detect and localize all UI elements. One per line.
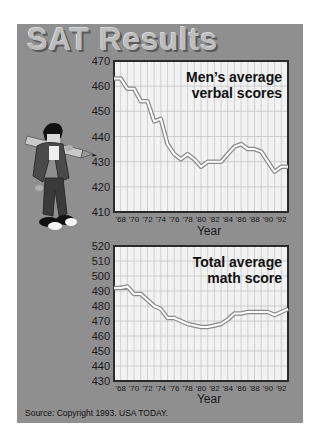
chart-title: math score [207,270,282,286]
x-tick-label: '80 [196,215,207,224]
y-tick-label: 470 [92,315,110,327]
x-tick-label: '70 [129,215,140,224]
y-tick-label: 450 [92,105,110,117]
y-tick-label: 520 [92,240,110,252]
y-tick-label: 460 [92,80,110,92]
x-tick-label: '84 [223,384,234,393]
x-axis-title: Year [197,224,221,238]
y-tick-label: 510 [92,255,110,267]
x-tick-label: '74 [156,384,167,393]
y-tick-label: 430 [92,375,110,387]
x-tick-label: '72 [142,215,153,224]
x-tick-label: '86 [236,384,247,393]
x-tick-label: '86 [236,215,247,224]
x-tick-label: '72 [142,384,153,393]
x-tick-label: '92 [276,215,287,224]
chart-title: Men’s average [186,69,282,85]
chart-title: Total average [193,254,282,270]
y-tick-label: 500 [92,270,110,282]
chart-title: verbal scores [192,85,282,101]
x-tick-label: '92 [276,384,287,393]
y-tick-label: 450 [92,345,110,357]
x-tick-label: '78 [182,215,193,224]
x-tick-label: '84 [223,215,234,224]
y-tick-label: 440 [92,360,110,372]
x-tick-label: '88 [249,215,260,224]
x-tick-label: '68 [115,384,126,393]
chart-2: 430440450460470480490500510520'68'70'72'… [92,240,288,406]
x-tick-label: '88 [249,384,260,393]
x-tick-label: '78 [182,384,193,393]
y-tick-label: 460 [92,330,110,342]
source-note: Source: Copyright 1993. USA TODAY. [25,408,168,418]
student-with-pencil-icon [25,118,97,238]
x-tick-label: '70 [129,384,140,393]
x-tick-label: '74 [156,215,167,224]
y-tick-label: 470 [92,55,110,67]
y-tick-label: 490 [92,285,110,297]
x-tick-label: '90 [263,215,274,224]
x-axis-title: Year [197,392,221,406]
x-tick-label: '76 [169,384,180,393]
x-tick-label: '90 [263,384,274,393]
x-tick-label: '68 [115,215,126,224]
chart-1: 410420430440450460470'68'70'72'74'76'78'… [92,55,288,238]
y-tick-label: 480 [92,300,110,312]
x-tick-label: '82 [209,215,220,224]
x-tick-label: '76 [169,215,180,224]
